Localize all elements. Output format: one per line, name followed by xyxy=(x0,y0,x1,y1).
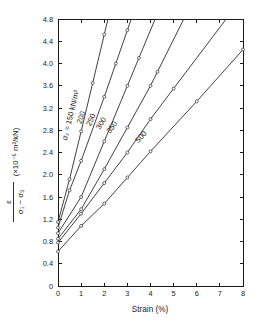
chart-figure: 012345678 00.40.81.21.62.02.42.83.23.64.… xyxy=(0,0,256,324)
y-tick-label: 3.2 xyxy=(43,104,53,113)
data-point-200 xyxy=(80,159,83,162)
y-tick-label: 1.2 xyxy=(43,215,53,224)
data-point-350 xyxy=(103,182,106,185)
y-tick-label: 4.4 xyxy=(43,37,53,46)
data-point-250 xyxy=(103,140,106,143)
y-axis-units-text: (×10⁻⁵ m²/kN) xyxy=(11,127,20,176)
y-tick-label: 4.0 xyxy=(43,59,53,68)
series-line-300 xyxy=(58,19,184,239)
data-point-250 xyxy=(126,84,129,87)
x-tick-label: 5 xyxy=(172,289,176,298)
data-point-500 xyxy=(149,150,152,153)
chart-canvas: 012345678 00.40.81.21.62.02.42.83.23.64.… xyxy=(0,0,256,324)
data-point-500 xyxy=(242,48,245,51)
y-tick-label: 3.6 xyxy=(43,81,53,90)
data-point-350 xyxy=(172,87,175,90)
data-point-250 xyxy=(80,196,83,199)
data-point-150 xyxy=(80,130,83,133)
data-point-350 xyxy=(126,151,129,154)
x-tick-label: 7 xyxy=(218,289,222,298)
data-point-markers xyxy=(57,29,245,253)
data-point-350 xyxy=(80,212,83,215)
y-tick-label: 0.4 xyxy=(43,259,53,268)
data-point-500 xyxy=(126,176,129,179)
y-tick-label: 0.8 xyxy=(43,237,53,246)
x-axis-tick-labels: 012345678 xyxy=(56,289,245,298)
data-point-300 xyxy=(103,168,106,171)
y-axis-numerator-text: ε xyxy=(4,200,13,204)
y-tick-label: 0 xyxy=(49,282,53,291)
data-point-150 xyxy=(68,178,71,181)
y-tick-label: 1.6 xyxy=(43,193,53,202)
data-point-500 xyxy=(195,100,198,103)
x-axis-title-text: Strain (%) xyxy=(132,305,169,314)
data-point-150 xyxy=(57,221,60,224)
data-point-250 xyxy=(57,232,60,235)
data-series-group xyxy=(58,19,243,252)
data-point-200 xyxy=(103,95,106,98)
data-point-300 xyxy=(80,208,83,211)
data-point-150 xyxy=(91,81,94,84)
y-tick-label: 2.4 xyxy=(43,148,53,157)
x-tick-label: 1 xyxy=(79,289,83,298)
x-tick-label: 6 xyxy=(195,289,199,298)
data-point-200 xyxy=(114,62,117,65)
series-label-500: 500 xyxy=(133,129,148,144)
y-tick-label: 2.8 xyxy=(43,126,53,135)
data-point-200 xyxy=(126,29,129,32)
data-point-350 xyxy=(149,118,152,121)
data-point-200 xyxy=(68,189,71,192)
data-point-300 xyxy=(156,70,159,73)
y-tick-label: 4.8 xyxy=(43,15,53,24)
data-point-150 xyxy=(103,33,106,36)
x-axis-title: Strain (%) xyxy=(132,305,169,314)
data-point-250 xyxy=(137,56,140,59)
y-axis-tick-labels: 00.40.81.21.62.02.42.83.23.64.04.44.8 xyxy=(43,15,53,291)
x-tick-label: 4 xyxy=(148,289,152,298)
y-tick-label: 2.0 xyxy=(43,170,53,179)
x-tick-label: 8 xyxy=(241,289,245,298)
y-axis-denominator-text: σ₁ − σ₃ xyxy=(16,190,25,214)
series-label-group-500: 500 xyxy=(133,129,148,144)
y-axis-title: ε σ₁ − σ₃ (×10⁻⁵ m²/kN) xyxy=(4,127,25,222)
data-point-350 xyxy=(57,241,60,244)
data-point-300 xyxy=(126,126,129,129)
data-point-200 xyxy=(57,226,60,229)
x-tick-label: 2 xyxy=(102,289,106,298)
x-tick-label: 3 xyxy=(125,289,129,298)
data-point-500 xyxy=(57,250,60,253)
data-point-500 xyxy=(80,224,83,227)
x-tick-label: 0 xyxy=(56,289,60,298)
data-point-300 xyxy=(149,84,152,87)
data-point-300 xyxy=(57,237,60,240)
data-point-500 xyxy=(103,202,106,205)
